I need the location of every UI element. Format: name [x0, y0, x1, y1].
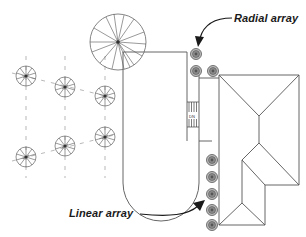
tree-icon — [16, 66, 36, 86]
linear-array-arrow — [140, 206, 198, 215]
tree-icon — [95, 86, 115, 106]
linear-array-shrubs — [207, 155, 218, 231]
tree-icon — [16, 147, 36, 167]
shrub-icon — [191, 49, 202, 60]
shrub-icon — [208, 66, 219, 77]
site-plan-diagram — [0, 0, 306, 237]
shrub-icon — [191, 66, 202, 77]
radial-array-arrow — [200, 18, 232, 38]
large-tree — [90, 14, 146, 70]
building-roof — [219, 75, 299, 225]
tree-icon — [95, 127, 115, 147]
tree-icon — [55, 77, 75, 97]
arrow-head-icon — [195, 36, 204, 47]
shrub-icon — [207, 205, 218, 216]
shrub-icon — [207, 155, 218, 166]
linear-array-label: Linear array — [69, 207, 133, 219]
radial-array-shrubs — [191, 49, 219, 77]
tree-grid — [16, 66, 115, 167]
driveway-path — [123, 52, 212, 221]
shrub-icon — [207, 189, 218, 200]
stairs-down-label: DN — [189, 114, 195, 119]
shrub-icon — [207, 172, 218, 183]
shrub-icon — [207, 220, 218, 231]
radial-array-label: Radial array — [234, 12, 298, 24]
arrow-head-icon — [193, 200, 205, 211]
